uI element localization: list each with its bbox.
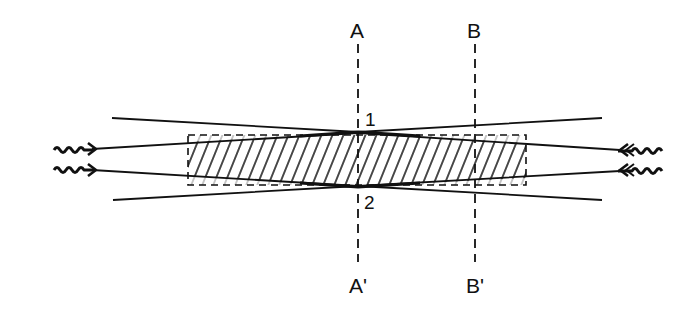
- diagram-svg: [0, 0, 700, 317]
- wavy-arrow-right-icon: [54, 143, 96, 155]
- plane-A-top-label: A: [350, 20, 364, 41]
- plane-B-bottom-label: B': [466, 275, 484, 296]
- wavy-arrow-left-icon: [618, 144, 662, 156]
- point-2-label: 2: [364, 193, 375, 212]
- plane-A-bottom-label: A': [349, 275, 367, 296]
- diagram-canvas: A B A' B' 1 2: [0, 0, 700, 317]
- point-1-label: 1: [365, 110, 376, 129]
- plane-B-top-label: B: [467, 20, 481, 41]
- wavy-arrow-left-icon: [618, 164, 662, 176]
- wavy-arrow-right-icon: [54, 164, 96, 176]
